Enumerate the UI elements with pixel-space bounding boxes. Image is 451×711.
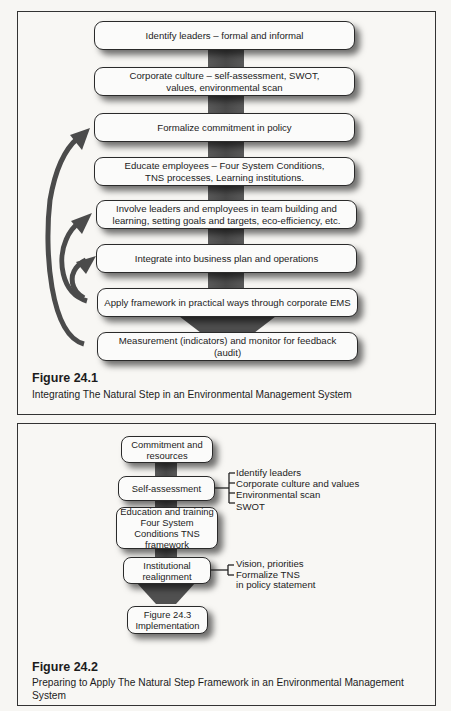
bracket-connector-icon: [0, 0, 451, 711]
